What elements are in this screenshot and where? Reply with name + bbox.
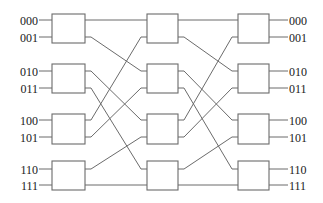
switch-box-s2-4: [147, 161, 178, 190]
output-label-3: 011: [289, 82, 307, 96]
switch-boxes: [52, 14, 269, 190]
output-label-4: 100: [289, 114, 307, 128]
link-s1-4-to-s2-1: [85, 37, 147, 120]
output-label-0: 000: [289, 14, 307, 28]
input-label-7: 111: [21, 179, 38, 193]
switch-box-s3-1: [238, 14, 269, 43]
switch-box-s3-3: [238, 114, 269, 144]
omega-network-diagram: 000 001 010 011 100 101 110 111 000 001 …: [0, 0, 323, 203]
input-label-1: 001: [20, 31, 38, 45]
link-s2-4-to-s3-1: [178, 37, 238, 120]
interconnect-wires: [85, 20, 238, 185]
input-label-6: 110: [20, 163, 38, 177]
input-label-4: 100: [20, 114, 38, 128]
link-s1-3-to-s2-6: [85, 88, 147, 169]
switch-box-s3-4: [238, 161, 269, 190]
output-label-5: 101: [289, 131, 307, 145]
input-label-2: 010: [20, 65, 38, 79]
output-label-6: 110: [289, 163, 307, 177]
link-s2-3-to-s3-6: [178, 88, 238, 169]
output-label-1: 001: [289, 31, 307, 45]
io-port-lines: [39, 20, 288, 185]
switch-box-s2-3: [147, 114, 178, 144]
input-label-0: 000: [20, 14, 38, 28]
switch-box-s1-2: [52, 64, 85, 93]
input-label-3: 011: [20, 82, 38, 96]
output-label-7: 111: [289, 179, 306, 193]
switch-box-s3-2: [238, 64, 269, 93]
switch-box-s1-4: [52, 161, 85, 190]
switch-box-s1-1: [52, 14, 85, 43]
switch-box-s2-1: [147, 14, 178, 43]
input-label-5: 101: [20, 131, 38, 145]
switch-box-s2-2: [147, 64, 178, 93]
output-label-2: 010: [289, 65, 307, 79]
switch-box-s1-3: [52, 114, 85, 144]
